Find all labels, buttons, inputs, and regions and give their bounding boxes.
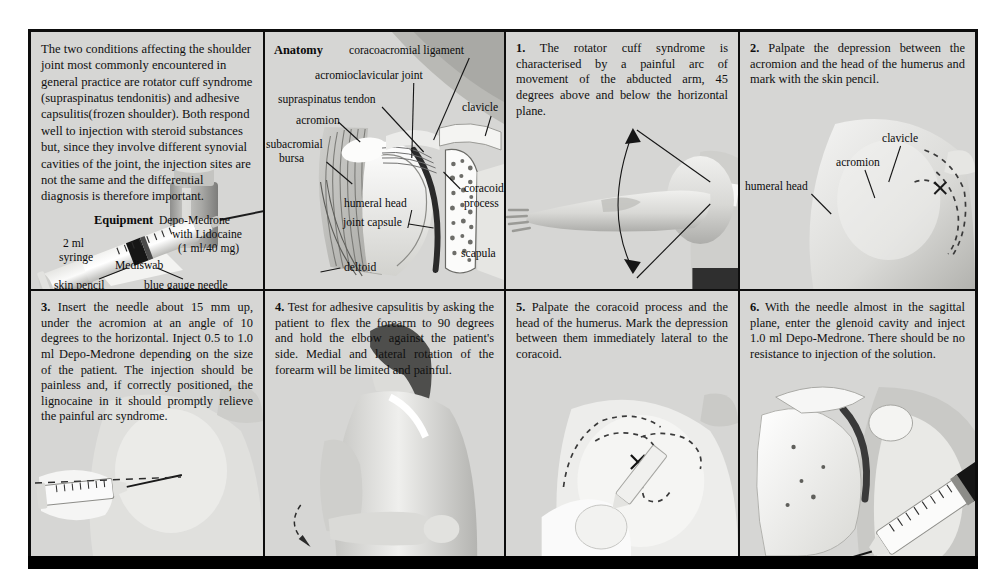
label-skin-pencil: skin pencil <box>54 279 105 289</box>
step-3-text: Insert the needle about 15 mm up, under … <box>41 300 253 423</box>
label-blue-gauge-needle: blue gauge needle <box>144 279 228 289</box>
label-coracoid-process-line2: process <box>464 197 499 210</box>
step-4-number: 4. <box>275 300 284 314</box>
panel-step-1: 1. The rotator cuff syndrome is characte… <box>504 32 738 289</box>
step-2-label-clavicle: clavicle <box>882 132 918 145</box>
step-5-number: 5. <box>516 300 525 314</box>
figure-frame: The two conditions affecting the shoulde… <box>28 29 978 556</box>
label-subacromial-bursa-line1: subacromial <box>266 138 323 151</box>
label-clavicle: clavicle <box>462 101 498 114</box>
step-4-text: Test for adhesive capsulitis by asking t… <box>275 300 494 377</box>
label-coracoacromial-ligament: coracoacromial ligament <box>349 44 464 57</box>
anatomy-heading: Anatomy <box>274 44 323 58</box>
equipment-heading: Equipment <box>94 214 153 228</box>
drug-name-line1: Depo-Medrone <box>159 214 230 227</box>
step-2-label-acromion: acromion <box>836 156 880 169</box>
label-deltoid: deltoid <box>344 261 376 274</box>
label-scapula: scapula <box>461 247 496 260</box>
panel-anatomy: Anatomy coracoacromial ligament acromioc… <box>263 32 504 289</box>
label-subacromial-bursa-line2: bursa <box>279 152 304 165</box>
label-joint-capsule: joint capsule <box>343 216 402 229</box>
step-1-arc-arrows <box>506 32 738 289</box>
panel-step-3: 3. Insert the needle about 15 mm up, und… <box>31 291 263 556</box>
label-humeral-head: humeral head <box>344 197 407 210</box>
step-3-text-block: 3. Insert the needle about 15 mm up, und… <box>31 291 263 425</box>
label-coracoid-process-line1: coracoid <box>464 182 504 195</box>
label-acromion: acromion <box>296 114 340 127</box>
step-6-text: With the needle almost in the sagittal p… <box>750 300 965 361</box>
step-5-text-block: 5. Palpate the coracoid process and the … <box>506 291 738 363</box>
step-6-number: 6. <box>750 300 759 314</box>
step-5-text: Palpate the coracoid process and the hea… <box>516 300 728 361</box>
panel-step-6: 6. With the needle almost in the sagitta… <box>738 291 975 556</box>
panel-row-top: The two conditions affecting the shoulde… <box>31 32 975 289</box>
drug-dose: (1 ml/40 mg) <box>178 242 239 255</box>
label-supraspinatus-tendon: supraspinatus tendon <box>278 93 376 106</box>
label-mediswab: Mediswab <box>115 259 163 272</box>
drug-name-line2: with Lidocaine <box>172 228 242 241</box>
step-2-label-humeral-head: humeral head <box>745 180 808 193</box>
panel-step-4: 4. Test for adhesive capsulitis by askin… <box>263 291 504 556</box>
step-6-text-block: 6. With the needle almost in the sagitta… <box>740 291 975 363</box>
label-acromioclavicular-joint: acromioclavicular joint <box>315 69 423 82</box>
label-syringe-line1: 2 ml <box>63 237 84 250</box>
label-syringe-line2: syringe <box>59 251 93 264</box>
bottom-black-bar <box>28 556 978 569</box>
panel-step-5: 5. Palpate the coracoid process and the … <box>504 291 738 556</box>
step-4-text-block: 4. Test for adhesive capsulitis by askin… <box>265 291 504 378</box>
panel-introduction: The two conditions affecting the shoulde… <box>31 32 263 289</box>
step-3-number: 3. <box>41 300 50 314</box>
panel-row-bottom: 3. Insert the needle about 15 mm up, und… <box>31 291 975 556</box>
panel-step-2: 2. Palpate the depression between the ac… <box>738 32 975 289</box>
